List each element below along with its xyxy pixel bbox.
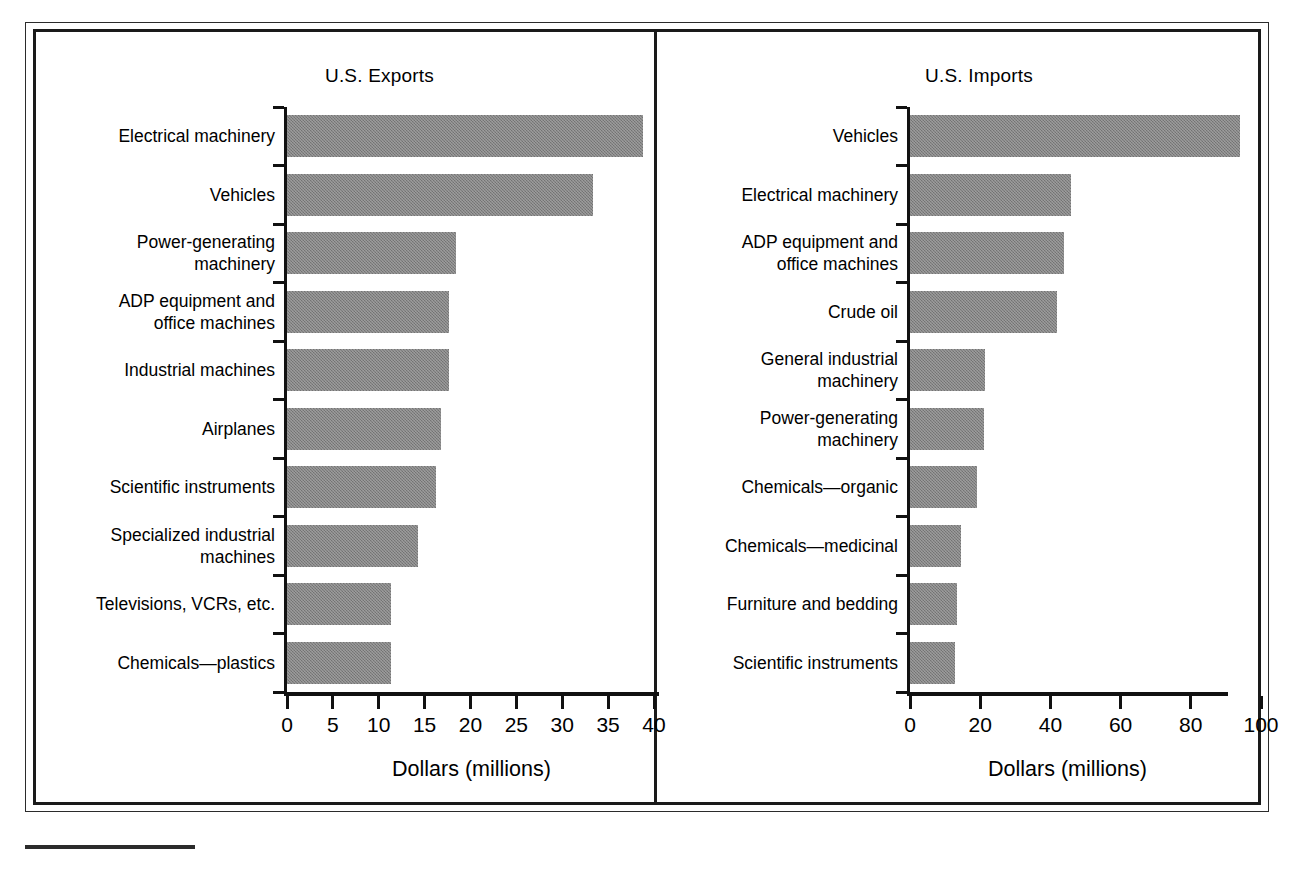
bottom-rule bbox=[25, 845, 195, 849]
x-tick-label: 35 bbox=[596, 713, 619, 737]
x-tick bbox=[1049, 696, 1052, 709]
y-tick-imports-8 bbox=[896, 574, 907, 577]
plot-area-imports: VehiclesElectrical machineryADP equipmen… bbox=[657, 107, 1261, 727]
bar bbox=[910, 583, 957, 625]
category-label: ADP equipment and office machines bbox=[742, 231, 898, 275]
y-tick-imports-end bbox=[896, 691, 907, 694]
bar bbox=[287, 291, 449, 333]
bar bbox=[287, 349, 449, 391]
x-tick-label: 10 bbox=[367, 713, 390, 737]
x-tick bbox=[1189, 696, 1192, 709]
bar bbox=[910, 408, 984, 450]
category-label: Scientific instruments bbox=[110, 476, 275, 498]
bar bbox=[287, 583, 391, 625]
chart-panel-imports: U.S. Imports VehiclesElectrical machiner… bbox=[657, 29, 1261, 805]
y-tick-exports-9 bbox=[273, 632, 284, 635]
x-tick bbox=[469, 696, 472, 709]
x-tick bbox=[909, 696, 912, 709]
x-tick bbox=[1119, 696, 1122, 709]
x-tick bbox=[1260, 696, 1263, 709]
x-tick-label: 100 bbox=[1243, 713, 1278, 737]
y-tick-imports-9 bbox=[896, 632, 907, 635]
bar bbox=[910, 232, 1064, 274]
y-tick-exports-5 bbox=[273, 398, 284, 401]
category-label: Electrical machinery bbox=[741, 184, 898, 206]
x-tick bbox=[286, 696, 289, 709]
x-tick-label: 0 bbox=[281, 713, 293, 737]
category-label: Furniture and bedding bbox=[727, 593, 898, 615]
category-label: Electrical machinery bbox=[118, 125, 275, 147]
x-tick bbox=[561, 696, 564, 709]
x-tick bbox=[515, 696, 518, 709]
category-label: Chemicals—medicinal bbox=[725, 535, 898, 557]
category-label: Specialized industrial machines bbox=[111, 524, 275, 568]
x-axis-title-imports: Dollars (millions) bbox=[907, 757, 1228, 782]
x-tick bbox=[653, 696, 656, 709]
y-tick-exports-0 bbox=[273, 106, 284, 109]
category-label: Vehicles bbox=[833, 125, 898, 147]
category-label-column-exports: Electrical machineryVehiclesPower-genera… bbox=[33, 107, 284, 727]
bar bbox=[910, 642, 955, 684]
x-tick-label: 60 bbox=[1109, 713, 1132, 737]
x-tick bbox=[331, 696, 334, 709]
x-tick bbox=[607, 696, 610, 709]
bar bbox=[910, 525, 961, 567]
category-label: Industrial machines bbox=[124, 359, 275, 381]
bar bbox=[910, 466, 977, 508]
category-label: Power-generating machinery bbox=[137, 231, 275, 275]
x-tick bbox=[979, 696, 982, 709]
category-label: Power-generating machinery bbox=[760, 407, 898, 451]
chart-title-imports: U.S. Imports bbox=[657, 65, 1261, 87]
category-label: Scientific instruments bbox=[733, 652, 898, 674]
chart-title-exports: U.S. Exports bbox=[33, 65, 654, 87]
category-label: General industrial machinery bbox=[761, 348, 898, 392]
x-axis-title-exports: Dollars (millions) bbox=[284, 757, 659, 782]
bar bbox=[287, 525, 418, 567]
x-tick-label: 15 bbox=[413, 713, 436, 737]
x-tick-label: 20 bbox=[459, 713, 482, 737]
x-tick-label: 20 bbox=[969, 713, 992, 737]
category-label: Chemicals—plastics bbox=[117, 652, 275, 674]
plot-area-exports: Electrical machineryVehiclesPower-genera… bbox=[33, 107, 654, 727]
x-tick-label: 30 bbox=[551, 713, 574, 737]
category-label: ADP equipment and office machines bbox=[119, 290, 275, 334]
x-tick-label: 0 bbox=[904, 713, 916, 737]
y-tick-imports-3 bbox=[896, 281, 907, 284]
category-label: Chemicals—organic bbox=[741, 476, 898, 498]
y-tick-imports-2 bbox=[896, 223, 907, 226]
bars-area-exports bbox=[287, 107, 654, 692]
bar bbox=[910, 174, 1071, 216]
y-tick-imports-0 bbox=[896, 106, 907, 109]
x-tick-label: 25 bbox=[505, 713, 528, 737]
y-tick-exports-4 bbox=[273, 340, 284, 343]
x-tick-label: 40 bbox=[1039, 713, 1062, 737]
bar bbox=[910, 115, 1240, 157]
y-tick-exports-3 bbox=[273, 281, 284, 284]
x-tick bbox=[423, 696, 426, 709]
y-tick-imports-7 bbox=[896, 515, 907, 518]
y-tick-imports-5 bbox=[896, 398, 907, 401]
category-label-column-imports: VehiclesElectrical machineryADP equipmen… bbox=[657, 107, 907, 727]
chart-panel-exports: U.S. Exports Electrical machineryVehicle… bbox=[33, 29, 654, 805]
x-tick-label: 5 bbox=[327, 713, 339, 737]
bar bbox=[910, 291, 1057, 333]
y-tick-exports-6 bbox=[273, 457, 284, 460]
bar bbox=[910, 349, 985, 391]
bar bbox=[287, 232, 456, 274]
bars-area-imports bbox=[910, 107, 1261, 692]
bar bbox=[287, 115, 643, 157]
y-tick-exports-end bbox=[273, 691, 284, 694]
bar bbox=[287, 642, 391, 684]
y-tick-imports-6 bbox=[896, 457, 907, 460]
y-tick-exports-1 bbox=[273, 164, 284, 167]
bar bbox=[287, 466, 436, 508]
bar bbox=[287, 408, 441, 450]
category-label: Vehicles bbox=[210, 184, 275, 206]
y-tick-imports-4 bbox=[896, 340, 907, 343]
y-tick-exports-7 bbox=[273, 515, 284, 518]
y-tick-imports-1 bbox=[896, 164, 907, 167]
x-tick bbox=[377, 696, 380, 709]
y-tick-exports-8 bbox=[273, 574, 284, 577]
category-label: Airplanes bbox=[202, 418, 275, 440]
y-tick-exports-2 bbox=[273, 223, 284, 226]
